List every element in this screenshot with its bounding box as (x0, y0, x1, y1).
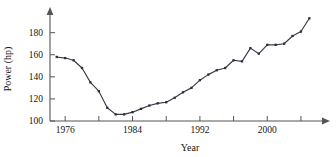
y-tick-label-100: 100 (29, 116, 44, 126)
data-point-1997 (241, 60, 243, 62)
data-point-1986 (148, 104, 150, 106)
chart-figure: 1001201401601801976198419922000 Year Pow… (0, 0, 336, 157)
y-axis-arrow (47, 7, 54, 15)
data-point-1999 (258, 53, 260, 55)
data-point-2005 (308, 17, 310, 19)
x-tick-label-2000: 2000 (258, 125, 277, 135)
x-axis-arrow (322, 118, 330, 125)
y-axis-title: Power (hp) (2, 47, 14, 92)
y-tick-label-120: 120 (29, 94, 44, 104)
data-point-1975 (56, 56, 58, 58)
data-point-1991 (190, 87, 192, 89)
data-point-1993 (207, 73, 209, 75)
data-point-1987 (157, 102, 159, 104)
data-point-markers (56, 17, 311, 115)
axis-tick-labels: 1001201401601801976198419922000 (29, 28, 277, 135)
data-point-1985 (140, 108, 142, 110)
data-point-1989 (173, 97, 175, 99)
y-tick-label-160: 160 (29, 50, 44, 60)
y-tick-label-140: 140 (29, 72, 44, 82)
data-point-1992 (199, 79, 201, 81)
data-point-2000 (266, 44, 268, 46)
data-point-1984 (131, 111, 133, 113)
chart-axes (47, 7, 330, 124)
data-point-1983 (123, 113, 125, 115)
data-point-1978 (81, 67, 83, 69)
x-tick-label-1976: 1976 (56, 125, 75, 135)
data-point-1980 (98, 90, 100, 92)
data-point-1976 (64, 57, 66, 59)
data-point-2001 (275, 44, 277, 46)
data-point-1996 (232, 59, 234, 61)
x-axis-title: Year (181, 142, 200, 153)
data-point-1995 (224, 67, 226, 69)
data-point-1977 (72, 59, 74, 61)
data-point-1988 (165, 101, 167, 103)
x-tick-label-1984: 1984 (123, 125, 142, 135)
data-point-2002 (283, 43, 285, 45)
data-point-1981 (106, 107, 108, 109)
data-point-1994 (216, 69, 218, 71)
data-point-2003 (291, 35, 293, 37)
x-tick-label-1992: 1992 (190, 125, 209, 135)
data-series-power (57, 18, 310, 114)
data-point-1982 (115, 113, 117, 115)
power-series-line (57, 18, 310, 114)
y-tick-label-180: 180 (29, 28, 44, 38)
data-point-1979 (89, 81, 91, 83)
line-chart: 1001201401601801976198419922000 Year Pow… (0, 0, 336, 157)
data-point-1990 (182, 91, 184, 93)
data-point-1998 (249, 47, 251, 49)
data-point-2004 (300, 30, 302, 32)
